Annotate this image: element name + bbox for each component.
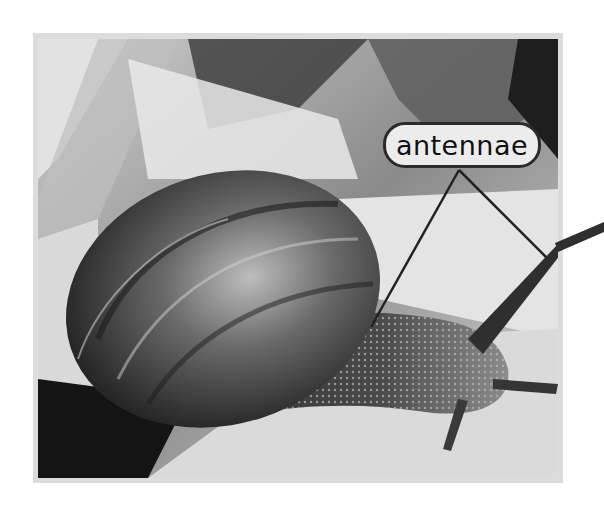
snail-scene [38,39,558,478]
snail-photo [38,39,558,478]
antennae-label: antennae [383,122,541,168]
